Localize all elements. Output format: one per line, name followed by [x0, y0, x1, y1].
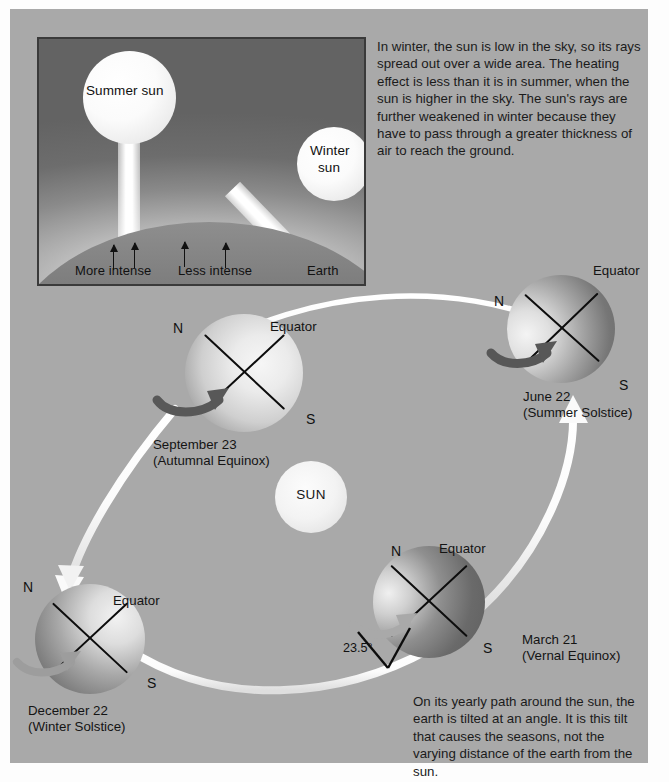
sun-angle-inset: Summer sun Winter sun More intense Less … [37, 37, 366, 286]
globe-september-23-event: (Autumnal Equinox) [153, 453, 270, 470]
globe-december-22-event: (Winter Solstice) [28, 719, 126, 736]
tilt-angle-label: 23.5° [343, 641, 373, 655]
globe-march-21-event: (Vernal Equinox) [522, 648, 620, 665]
globe-june-22-rotation-arrow [485, 331, 567, 371]
less-intense-label: Less intense [178, 263, 252, 278]
globe-december-22-north: N [23, 579, 33, 595]
orbit-arc-near-right [480, 414, 573, 609]
globe-march-21-equator-label: Equator [439, 541, 486, 558]
globe-september-23-rotation-arrow [153, 376, 243, 418]
more-intense-label: More intense [75, 263, 151, 278]
globe-september-23-north: N [173, 320, 183, 336]
globe-december-22-date: December 22 [28, 703, 108, 720]
globe-september-23-date: September 23 [153, 437, 237, 454]
globe-june-22-event: (Summer Solstice) [523, 405, 632, 422]
winter-sun-label-line1: Winter [310, 143, 350, 158]
top-paragraph: In winter, the sun is low in the sky, so… [377, 38, 645, 160]
globe-december-22-equator-label: Equator [113, 593, 160, 610]
globe-june-22-equator-label: Equator [593, 263, 640, 280]
orbit-arc-left [70, 409, 175, 581]
earth-label: Earth [307, 263, 339, 278]
globe-december-22-south: S [147, 675, 156, 691]
central-sun: SUN [275, 461, 347, 533]
globe-september-23-south: S [306, 411, 315, 427]
winter-sun-label-line2: sun [318, 160, 340, 175]
globe-december-22-rotation-arrow [11, 640, 93, 680]
bottom-paragraph: On its yearly path around the sun, the e… [413, 693, 649, 780]
globe-march-21-date: March 21 [522, 632, 577, 649]
globe-june-22-date: June 22 [523, 389, 570, 406]
globe-march-21-south: S [483, 640, 492, 656]
figure-page: Summer sun Winter sun More intense Less … [0, 0, 669, 782]
summer-sun-label: Summer sun [86, 83, 164, 98]
figure-panel: Summer sun Winter sun More intense Less … [10, 9, 648, 763]
globe-june-22-south: S [619, 377, 628, 393]
globe-june-22-north: N [494, 293, 504, 309]
sun-label: SUN [275, 487, 347, 502]
globe-march-21-north: N [391, 543, 401, 559]
globe-june-22 [507, 275, 615, 383]
globe-september-23-equator-label: Equator [270, 319, 317, 336]
